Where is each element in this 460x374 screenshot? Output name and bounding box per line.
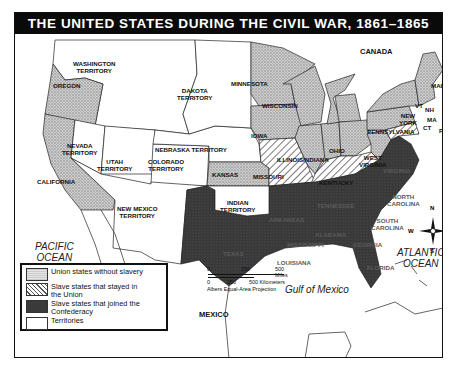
label-north-carolina: NORTHCAROLINA bbox=[387, 193, 420, 207]
map-title: THE UNITED STATES DURING THE CIVIL WAR, … bbox=[15, 13, 442, 34]
compass-w: W bbox=[408, 228, 414, 234]
label-colorado-territory: COLORADOTERRITORY bbox=[148, 158, 184, 172]
label-utah-territory: UTAHTERRITORY bbox=[97, 158, 132, 172]
mexico-gulf-coast bbox=[225, 286, 229, 358]
label-vt: VT bbox=[415, 102, 423, 109]
label-florida: FLORIDA bbox=[367, 264, 395, 271]
label-louisiana: LOUISIANA bbox=[277, 259, 311, 266]
label-ma: MA bbox=[427, 116, 437, 123]
label-nh: NH bbox=[425, 106, 434, 113]
label-pacific-ocean: PACIFICOCEAN bbox=[35, 241, 74, 263]
label-ohio: OHIO bbox=[329, 147, 345, 154]
projection-note: Albers Equal-Area Projection bbox=[207, 286, 276, 292]
label-canada: CANADA bbox=[360, 47, 393, 56]
label-washington-territory: WASHINGTONTERRITORY bbox=[73, 60, 116, 74]
label-nevada-territory: NEVADATERRITORY bbox=[62, 142, 97, 156]
compass-rose-icon: N S W E bbox=[415, 213, 443, 253]
label-alabama: ALABAMA bbox=[315, 231, 346, 238]
scale-mi-0: 0 bbox=[207, 266, 210, 272]
legend-item-union-free: Union states without slavery bbox=[26, 268, 162, 281]
legend-label: Territories bbox=[51, 317, 83, 325]
new-england-states bbox=[415, 52, 443, 106]
legend-label: Slave states that joined the Confederacy bbox=[51, 300, 151, 315]
label-west-virginia: WESTVIRGINIA bbox=[359, 154, 387, 168]
label-south-carolina: SOUTHCAROLINA bbox=[371, 217, 404, 231]
label-minnesota: MINNESOTA bbox=[231, 80, 268, 87]
label-oregon: OREGON bbox=[53, 82, 81, 89]
label-indiana: INDIANA bbox=[303, 156, 329, 163]
michigan-lower bbox=[335, 94, 361, 122]
label-kansas: KANSAS bbox=[212, 171, 238, 178]
scale-km-250: 250 bbox=[227, 279, 236, 285]
dotted-swatch-icon bbox=[26, 268, 48, 281]
blank-swatch-icon bbox=[26, 317, 48, 330]
label-maine: MAINE bbox=[431, 82, 443, 89]
legend-item-confederacy: Slave states that joined the Confederacy bbox=[26, 300, 162, 315]
scale-mi-250: 250 bbox=[241, 266, 250, 272]
label-virginia: VIRGINIA bbox=[383, 167, 411, 174]
label-new-mexico-territory: NEW MEXICOTERRITORY bbox=[117, 205, 158, 219]
legend-label: Union states without slavery bbox=[51, 268, 143, 276]
label-pennsylvania: PENNSYLVANIA bbox=[367, 128, 415, 135]
label-dakota-territory: DAKOTATERRITORY bbox=[177, 87, 212, 101]
label-california: CALIFORNIA bbox=[37, 178, 75, 185]
compass-s: S bbox=[430, 248, 434, 254]
label-kentucky: KENTUCKY bbox=[319, 179, 353, 186]
label-iowa: IOWA bbox=[251, 132, 268, 139]
scale-km-500: 500 Kilometers bbox=[249, 279, 285, 285]
legend-label: Slave states that stayed in the Union bbox=[51, 283, 141, 298]
label-tennessee: TENNESSEE bbox=[317, 202, 354, 209]
label-illinois: ILLINOIS bbox=[277, 156, 303, 163]
new-york-state bbox=[367, 80, 419, 112]
hatched-swatch-icon bbox=[26, 283, 48, 296]
label-ri: RI bbox=[439, 127, 443, 134]
compass-n: N bbox=[430, 205, 434, 211]
label-arkansas: ARKANSAS bbox=[269, 216, 304, 223]
scale-mi-500: 500 Miles bbox=[275, 266, 297, 278]
dark-swatch-icon bbox=[26, 300, 48, 313]
yucatan bbox=[305, 332, 351, 358]
label-georgia: GEORGIA bbox=[353, 241, 382, 248]
label-mexico: MEXICO bbox=[199, 310, 229, 319]
cuba bbox=[365, 302, 443, 314]
label-ct: CT bbox=[423, 124, 431, 131]
legend-item-territories: Territories bbox=[26, 317, 162, 330]
label-wisconsin: WISCONSIN bbox=[262, 102, 298, 109]
scale-km-0: 0 bbox=[207, 279, 210, 285]
label-nebraska-territory: NEBRASKA TERRITORY bbox=[155, 146, 227, 153]
map-legend: Union states without slavery Slave state… bbox=[20, 263, 168, 331]
scale-bar: 0 250 500 Miles 0 250 500 Kilometers Alb… bbox=[207, 266, 297, 296]
label-missouri: MISSOURI bbox=[253, 173, 284, 180]
label-texas: TEXAS bbox=[223, 250, 244, 257]
legend-item-border-slave: Slave states that stayed in the Union bbox=[26, 283, 162, 298]
label-new-york: NEWYORK bbox=[399, 112, 417, 126]
map-frame: THE UNITED STATES DURING THE CIVIL WAR, … bbox=[14, 12, 443, 358]
label-mississippi: MISSISSIPPI bbox=[287, 241, 324, 248]
label-indian-territory: INDIANTERRITORY bbox=[220, 199, 255, 213]
